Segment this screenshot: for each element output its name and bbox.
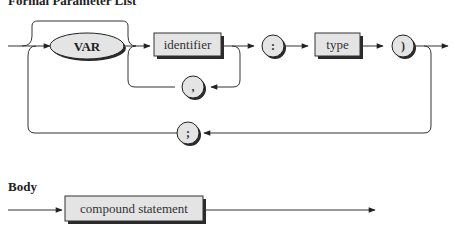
semicolon-symbol-node: ; [177,122,201,146]
identifier-nonterminal-node: identifier [154,33,224,59]
close-paren-symbol-node: ) [392,35,416,59]
svg-text:VAR: VAR [74,39,101,54]
svg-text:;: ; [186,126,190,140]
svg-text:,: , [192,80,195,94]
colon-symbol-node: : [262,35,286,59]
syntax-diagram-canvas: Formal Parameter List VAR identifier , [0,0,453,231]
svg-text::: : [271,39,275,53]
type-nonterminal-node: type [315,33,363,59]
diagram-title-formal-parameter-list: Formal Parameter List [8,0,137,8]
diagram-title-body: Body [8,179,37,194]
svg-text:identifier: identifier [164,37,212,52]
var-keyword-node: VAR [50,33,126,61]
svg-text:type: type [326,37,349,52]
svg-text:): ) [401,39,405,53]
svg-text:compound statement: compound statement [80,201,188,216]
compound-statement-nonterminal-node: compound statement [65,196,206,224]
comma-symbol-node: , [182,76,206,100]
